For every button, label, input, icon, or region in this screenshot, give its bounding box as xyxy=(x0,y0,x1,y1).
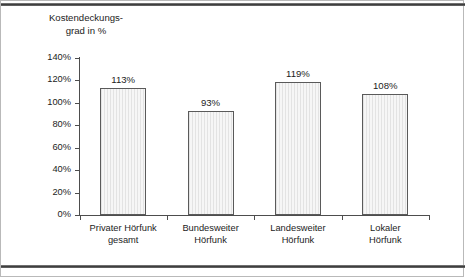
bar xyxy=(362,94,408,215)
x-category-label-line: Bundesweiter xyxy=(167,222,254,234)
x-category-label-line: Privater Hörfunk xyxy=(80,222,167,234)
bar-value-label: 119% xyxy=(268,68,328,79)
bar xyxy=(188,111,234,215)
y-tick-label-wrap: 40% xyxy=(27,170,71,171)
y-tick-label-wrap: 80% xyxy=(27,125,71,126)
y-tick-label-wrap: 120% xyxy=(27,80,71,81)
y-tick-label: 100% xyxy=(27,97,71,107)
x-category-label-line: Hörfunk xyxy=(254,234,341,246)
bar-value-label: 108% xyxy=(355,80,415,91)
y-tick xyxy=(75,170,80,171)
x-category-label: BundesweiterHörfunk xyxy=(167,222,254,247)
x-category-label: LandesweiterHörfunk xyxy=(254,222,341,247)
x-category-label-line: gesamt xyxy=(80,234,167,246)
x-tick xyxy=(429,215,430,220)
y-tick-label-wrap: 140% xyxy=(27,58,71,59)
x-tick xyxy=(167,215,168,220)
y-tick xyxy=(75,58,80,59)
bar xyxy=(100,88,146,215)
x-category-label-line: Landesweiter xyxy=(254,222,341,234)
y-tick-label: 40% xyxy=(27,164,71,174)
y-tick xyxy=(75,193,80,194)
y-tick xyxy=(75,148,80,149)
y-tick-label: 60% xyxy=(27,142,71,152)
y-tick-label-wrap: 0% xyxy=(27,215,71,216)
bar-value-label: 113% xyxy=(93,74,153,85)
x-category-label-line: Lokaler xyxy=(342,222,429,234)
y-tick-label-wrap: 100% xyxy=(27,103,71,104)
y-tick-label-wrap: 60% xyxy=(27,148,71,149)
y-tick xyxy=(75,103,80,104)
x-tick xyxy=(342,215,343,220)
x-tick xyxy=(80,215,81,220)
x-tick xyxy=(254,215,255,220)
y-tick xyxy=(75,125,80,126)
y-tick-label: 20% xyxy=(27,187,71,197)
y-tick-label-wrap: 20% xyxy=(27,193,71,194)
y-tick-label: 140% xyxy=(27,52,71,62)
x-category-label-line: Hörfunk xyxy=(167,234,254,246)
plot-area: 0%20%40%60%80%100%120%140% 113%93%119%10… xyxy=(1,1,465,277)
x-category-label: LokalerHörfunk xyxy=(342,222,429,247)
y-tick-label: 0% xyxy=(27,209,71,219)
y-tick-label: 80% xyxy=(27,119,71,129)
bar xyxy=(275,82,321,215)
y-tick xyxy=(75,80,80,81)
y-tick-label: 120% xyxy=(27,74,71,84)
x-category-label-line: Hörfunk xyxy=(342,234,429,246)
x-category-label: Privater Hörfunkgesamt xyxy=(80,222,167,247)
bar-value-label: 93% xyxy=(181,97,241,108)
